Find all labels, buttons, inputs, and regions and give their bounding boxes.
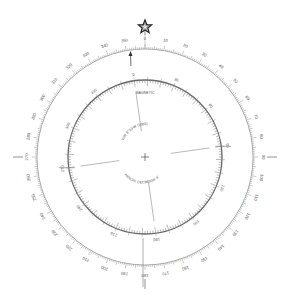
magnetic-ring-label: 60 bbox=[207, 102, 214, 109]
true-ring-label: 20 bbox=[182, 43, 189, 50]
true-ring-label: 180 bbox=[141, 273, 149, 278]
magnetic-ring-label: 90 bbox=[225, 143, 231, 149]
magnetic-axis-line bbox=[149, 183, 154, 222]
magnetic-ring-label: 180 bbox=[152, 237, 160, 243]
true-ring-label: 320 bbox=[65, 62, 74, 71]
annual-change-text: ANNUAL DECREASE 8' bbox=[123, 173, 160, 185]
magnetic-ring-label: 270 bbox=[59, 164, 65, 172]
magnetic-axis-line bbox=[171, 148, 210, 153]
true-ring-label: 50 bbox=[232, 78, 239, 85]
true-ring-label: 220 bbox=[64, 243, 73, 252]
compass-rose-svg: 0102030405060708090100110120130140150160… bbox=[0, 0, 290, 299]
true-ring-label: 90 bbox=[261, 155, 266, 160]
magnetic-ring-label: 300 bbox=[64, 121, 71, 130]
magnetic-ring-label: 120 bbox=[219, 184, 226, 193]
magnetic-label: MAGNETIC bbox=[136, 91, 155, 95]
true-ring-label: 160 bbox=[181, 265, 190, 272]
true-ring-label: 250 bbox=[30, 193, 37, 202]
compass-rose: 0102030405060708090100110120130140150160… bbox=[0, 0, 290, 299]
true-ring-label: 0 bbox=[144, 36, 147, 41]
true-ring-label: 110 bbox=[253, 193, 260, 202]
true-ring-label: 10 bbox=[163, 38, 169, 44]
true-ring-label: 70 bbox=[253, 113, 260, 120]
true-ring-label: 260 bbox=[25, 173, 31, 181]
magnetic-ring-label: 330 bbox=[89, 87, 98, 96]
true-ring-label: 240 bbox=[38, 211, 46, 220]
true-ring-label: 40 bbox=[218, 63, 225, 70]
true-ring-label: 150 bbox=[199, 256, 208, 264]
true-ring-label: 290 bbox=[30, 112, 37, 121]
true-ring-label: 80 bbox=[259, 134, 265, 140]
magnetic-ring-label: 240 bbox=[75, 204, 84, 213]
north-star-icon bbox=[138, 20, 151, 49]
true-ring-label: 330 bbox=[82, 50, 91, 58]
true-ring-label: 350 bbox=[121, 37, 129, 43]
true-ring-label: 30 bbox=[201, 51, 208, 58]
true-ring-label: 310 bbox=[50, 76, 59, 85]
true-ring-label: 280 bbox=[25, 132, 31, 140]
true-ring-label: 170 bbox=[161, 271, 169, 277]
magnetic-ring-label: 150 bbox=[192, 219, 201, 228]
true-ring-label: 230 bbox=[50, 228, 59, 237]
true-ring-label: 190 bbox=[120, 270, 128, 276]
magnetic-ring-label: 210 bbox=[109, 231, 118, 238]
true-ring-label: 120 bbox=[243, 212, 251, 221]
variation-text: VAR 8°23'W (1985) bbox=[121, 122, 148, 141]
true-ring-label: 60 bbox=[244, 95, 251, 102]
true-ring-label: 140 bbox=[216, 244, 225, 253]
true-ring-label: 210 bbox=[81, 255, 90, 263]
true-ring-label: 270 bbox=[24, 153, 29, 161]
true-ring-label: 340 bbox=[100, 42, 109, 49]
true-ring-label: 300 bbox=[39, 93, 47, 102]
magnetic-axis-line bbox=[81, 161, 120, 166]
true-ring-label: 130 bbox=[231, 229, 240, 238]
magnetic-ring-label: 30 bbox=[173, 76, 180, 83]
magnetic-ring-label: 0 bbox=[132, 72, 136, 77]
true-ring-label: 200 bbox=[100, 264, 109, 271]
true-ring-label: 100 bbox=[258, 174, 264, 182]
